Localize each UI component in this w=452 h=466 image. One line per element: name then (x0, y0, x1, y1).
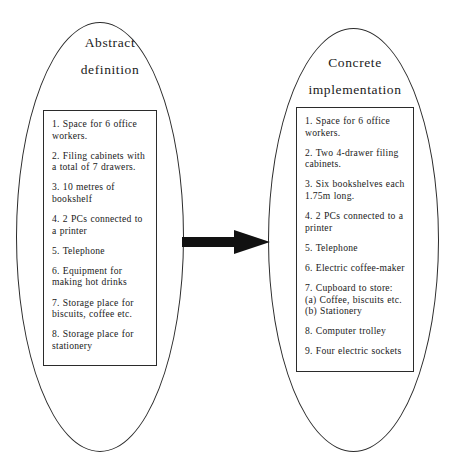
concrete-implementation-list-box: 1. Space for 6 office workers. 2. Two 4-… (296, 107, 414, 372)
list-item: 1. Space for 6 office workers. (52, 118, 150, 141)
list-item: 6. Electric coffee-maker (305, 262, 407, 274)
list-item-label: 7. Cupboard to store: (305, 282, 393, 293)
list-item: 9. Four electric sockets (305, 345, 407, 357)
rightward-arrow-icon (182, 226, 272, 258)
list-subitem-b: (b) Stationery (305, 305, 407, 317)
list-item-cupboard: 7. Cupboard to store: (a) Coffee, biscui… (305, 282, 407, 317)
list-item: 5. Telephone (305, 242, 407, 254)
list-item: 4. 2 PCs connected to a printer (305, 210, 407, 233)
concrete-heading-line2: implementation (276, 83, 434, 97)
list-item: 7. Storage place for biscuits, coffee et… (52, 297, 150, 320)
list-item: 5. Telephone (52, 245, 150, 257)
diagram-canvas: Abstract definition 1. Space for 6 offic… (0, 0, 452, 466)
list-item: 2. Filing cabinets with a total of 7 dra… (52, 150, 150, 173)
list-item: 8. Storage place for stationery (52, 328, 150, 351)
abstract-heading-line2: definition (30, 63, 190, 77)
list-item: 3. 10 metres of bookshelf (52, 181, 150, 204)
concrete-implementation-heading: Concrete implementation (276, 56, 434, 97)
abstract-definition-heading: Abstract definition (30, 36, 190, 77)
abstract-heading-line1: Abstract (85, 35, 136, 50)
list-item: 8. Computer trolley (305, 325, 407, 337)
concrete-heading-line1: Concrete (328, 55, 382, 70)
list-item: 1. Space for 6 office workers. (305, 115, 407, 138)
list-item: 4. 2 PCs connected to a printer (52, 213, 150, 236)
list-item: 2. Two 4-drawer filing cabinets. (305, 147, 407, 170)
abstract-definition-list-box: 1. Space for 6 office workers. 2. Filing… (43, 110, 157, 366)
list-subitem-a: (a) Coffee, biscuits etc. (305, 294, 407, 306)
list-item: 3. Six bookshelves each 1.75m long. (305, 178, 407, 201)
list-item: 6. Equipment for making hot drinks (52, 265, 150, 288)
